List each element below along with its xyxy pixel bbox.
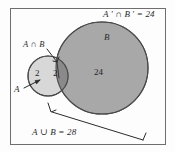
region-count-a-only: 2 <box>35 69 40 78</box>
venn-diagram-canvas <box>0 0 175 152</box>
universe-complement-label: A ' ∩ B ' = 24 <box>103 10 155 19</box>
venn-diagram-figure: A ' ∩ B ' = 24 A ∩ B A B A ∪ B = 28 2 2 … <box>0 0 175 152</box>
union-label: A ∪ B = 28 <box>32 128 76 137</box>
set-b-label: B <box>104 33 110 42</box>
region-count-b-only: 24 <box>94 68 103 77</box>
set-a-label: A <box>14 85 20 94</box>
region-count-intersection: 2 <box>53 69 58 78</box>
intersection-label: A ∩ B <box>23 40 45 49</box>
